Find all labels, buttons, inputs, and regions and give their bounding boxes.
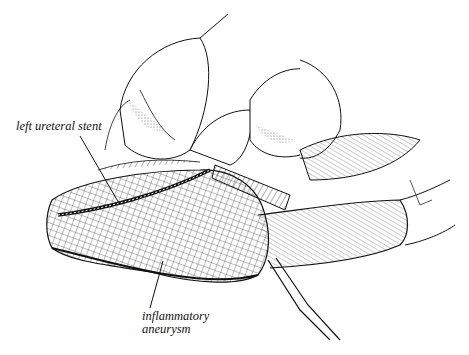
label-left-ureteral-stent: left ureteral stent <box>16 120 102 133</box>
right-tissue <box>400 180 455 245</box>
label-line-2: aneurysm <box>142 323 209 336</box>
label-text: left ureteral stent <box>16 119 102 133</box>
aneurysm-body <box>47 170 408 282</box>
retracted-tissue <box>98 14 420 180</box>
surgical-illustration <box>0 0 469 355</box>
catheter <box>268 258 340 340</box>
label-inflammatory-aneurysm: inflammatory aneurysm <box>142 310 209 336</box>
